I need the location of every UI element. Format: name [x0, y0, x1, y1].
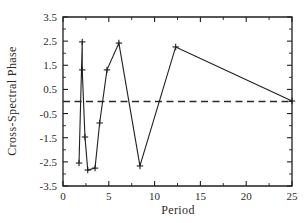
- x-tick-label: 5: [106, 190, 112, 202]
- data-point-marker: [82, 134, 88, 140]
- y-tick-label: 2.5: [43, 35, 57, 47]
- y-tick-label: -2.5: [40, 156, 58, 168]
- y-axis-tick-labels: -3.5-2.5-1.5-0.50.51.52.53.5: [40, 11, 58, 192]
- x-axis-tick-labels: 0510152025: [60, 190, 298, 202]
- y-tick-label: 0.5: [43, 83, 57, 95]
- x-tick-label: 20: [241, 190, 253, 202]
- series-line-cross-spectral-phase: [79, 42, 292, 170]
- y-axis-title: Cross-Spectral Phase: [5, 46, 19, 156]
- data-point-marker: [92, 165, 98, 171]
- x-tick-label: 25: [287, 190, 299, 202]
- series-markers: [76, 39, 295, 174]
- data-point-marker: [289, 98, 295, 104]
- data-point-marker: [116, 40, 122, 46]
- data-point-marker: [96, 120, 102, 126]
- plot-frame: [63, 17, 292, 186]
- x-axis-title: Period: [161, 203, 195, 217]
- data-point-marker: [85, 167, 91, 173]
- y-tick-label: 3.5: [43, 11, 57, 23]
- y-tick-label: -3.5: [40, 180, 58, 192]
- x-tick-label: 10: [149, 190, 161, 202]
- y-tick-label: -0.5: [40, 108, 58, 120]
- data-point-marker: [137, 163, 143, 169]
- x-tick-label: 0: [60, 190, 66, 202]
- axis-tick-marks: [63, 17, 292, 186]
- data-point-marker: [79, 39, 85, 45]
- data-point-marker: [172, 44, 178, 50]
- cross-spectral-phase-plot: -3.5-2.5-1.5-0.50.51.52.53.5 0510152025 …: [0, 0, 307, 223]
- x-tick-label: 15: [195, 190, 207, 202]
- chart-figure: -3.5-2.5-1.5-0.50.51.52.53.5 0510152025 …: [0, 0, 307, 223]
- data-point-marker: [76, 160, 82, 166]
- data-point-marker: [104, 67, 110, 73]
- data-point-marker: [79, 67, 85, 73]
- y-tick-label: -1.5: [40, 132, 58, 144]
- y-tick-label: 1.5: [43, 59, 57, 71]
